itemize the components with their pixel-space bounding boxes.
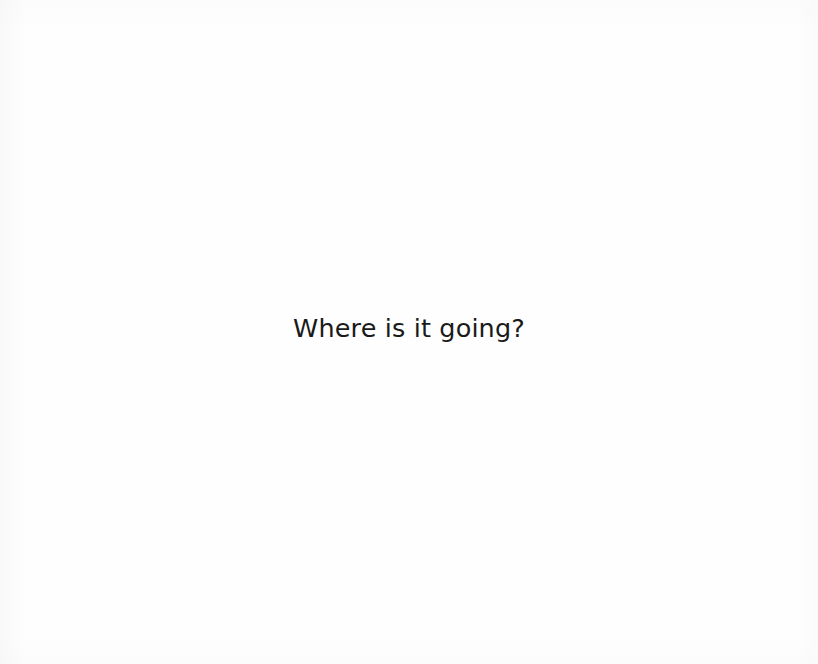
page-caption-text: Where is it going? xyxy=(293,311,525,345)
caption-block: Where is it going? xyxy=(0,311,818,345)
scanned-page: Where is it going? xyxy=(0,0,818,664)
